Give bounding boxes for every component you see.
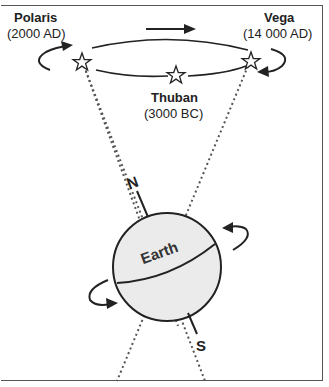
polaris-date: (2000 AD)	[7, 26, 66, 41]
vega-date: (14 000 AD)	[243, 26, 312, 41]
precession-diagram	[0, 0, 329, 387]
star-icon	[167, 66, 185, 83]
thuban-label: Thuban	[151, 90, 198, 105]
earth	[113, 213, 221, 321]
rotation-arrow-icon	[39, 41, 73, 70]
earth-rotation-arrow-icon	[89, 280, 118, 309]
earth-rotation-arrow-icon	[222, 222, 248, 250]
precession-ellipse	[92, 39, 248, 76]
thuban-date: (3000 BC)	[144, 106, 203, 121]
rotation-arrow-icon	[257, 49, 285, 77]
vega-label: Vega	[264, 10, 294, 25]
south-label: S	[196, 337, 206, 354]
star-icon	[73, 53, 91, 70]
direction-arrow-icon	[146, 24, 196, 34]
polaris-label: Polaris	[14, 10, 57, 25]
